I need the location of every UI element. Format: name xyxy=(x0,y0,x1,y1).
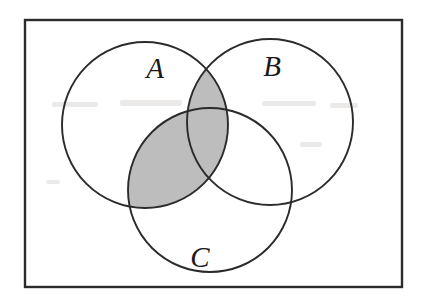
set-label-b: B xyxy=(263,50,281,82)
set-label-c: C xyxy=(190,241,210,273)
venn-diagram-figure: A B C xyxy=(0,0,421,307)
set-label-a: A xyxy=(144,52,164,84)
